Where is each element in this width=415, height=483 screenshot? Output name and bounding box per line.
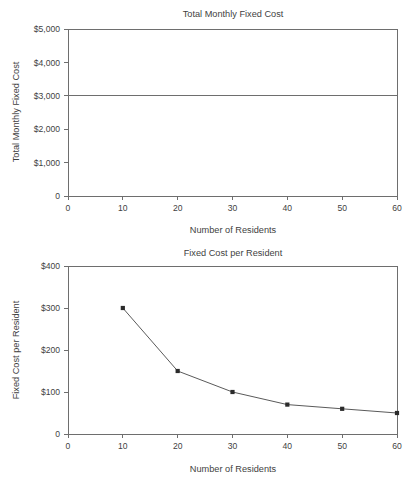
y-tick-label: $5,000 — [34, 24, 61, 34]
chart-title: Fixed Cost per Resident — [184, 248, 283, 258]
x-tick-label: 20 — [173, 441, 183, 451]
x-tick-label: 40 — [283, 441, 293, 451]
y-tick-label: $300 — [41, 303, 60, 313]
y-tick-label: 0 — [55, 191, 60, 201]
data-point-marker — [230, 390, 234, 394]
data-point-marker — [340, 407, 344, 411]
y-tick-label: $1,000 — [34, 158, 61, 168]
figure-page: Total Monthly Fixed Cost Total Monthly F… — [0, 0, 415, 483]
y-tick-label: $4,000 — [34, 58, 61, 68]
data-series-line — [123, 308, 397, 413]
chart-title: Total Monthly Fixed Cost — [183, 9, 284, 19]
y-tick-label: $100 — [41, 387, 60, 397]
x-tick-label: 10 — [118, 441, 128, 451]
y-tick-label: 0 — [55, 429, 60, 439]
chart-total-monthly-fixed-cost: Total Monthly Fixed Cost Total Monthly F… — [0, 0, 415, 240]
x-tick-label: 40 — [283, 203, 293, 213]
x-axis-title: Number of Residents — [190, 464, 277, 474]
y-axis-title: Fixed Cost per Resident — [11, 300, 21, 399]
y-axis-title: Total Monthly Fixed Cost — [11, 61, 21, 162]
x-tick-label: 0 — [66, 441, 71, 451]
y-tick-label: $400 — [41, 261, 60, 271]
x-tick-label: 10 — [118, 203, 128, 213]
data-point-marker — [121, 306, 125, 310]
x-tick-label: 50 — [337, 203, 347, 213]
data-point-marker — [395, 411, 399, 415]
x-tick-label: 60 — [392, 441, 402, 451]
data-point-marker — [285, 403, 289, 407]
x-tick-label: 0 — [66, 203, 71, 213]
x-tick-label: 60 — [392, 203, 402, 213]
y-tick-label: $3,000 — [34, 91, 61, 101]
chart-top-svg: Total Monthly Fixed Cost Total Monthly F… — [0, 0, 415, 240]
y-tick-label: $200 — [41, 345, 60, 355]
x-tick-label: 20 — [173, 203, 183, 213]
y-tick-label: $2,000 — [34, 124, 61, 134]
chart-bottom-svg: Fixed Cost per Resident Fixed Cost per R… — [0, 240, 415, 483]
chart-fixed-cost-per-resident: Fixed Cost per Resident Fixed Cost per R… — [0, 240, 415, 483]
x-tick-label: 30 — [228, 441, 238, 451]
x-tick-label: 30 — [228, 203, 238, 213]
x-axis-title: Number of Residents — [190, 225, 277, 235]
x-tick-label: 50 — [337, 441, 347, 451]
plot-area: 0$1,000$2,000$3,000$4,000$5,000010203040… — [34, 24, 402, 213]
plot-area: 0$100$200$300$4000102030405060 — [41, 261, 402, 451]
data-point-marker — [176, 369, 180, 373]
